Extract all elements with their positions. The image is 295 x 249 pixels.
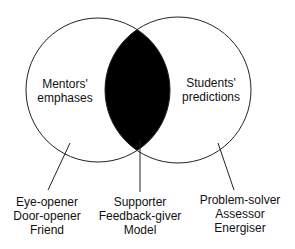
callout-left-line2: Door-opener: [13, 209, 80, 223]
students-label-line1: Students': [186, 76, 236, 90]
venn-diagram: Mentors' emphases Students' predictions …: [0, 0, 295, 249]
callout-right-line1: Problem-solver: [200, 193, 281, 207]
leader-line-right: [218, 143, 234, 190]
callout-middle-line1: Supporter: [114, 195, 167, 209]
students-label-line2: predictions: [182, 90, 240, 104]
callout-right-line3: Energiser: [214, 221, 265, 235]
callout-middle-line2: Feedback-giver: [99, 209, 182, 223]
callout-right-line2: Assessor: [215, 207, 264, 221]
mentors-label-line2: emphases: [37, 91, 92, 105]
mentors-label-line1: Mentors': [42, 77, 88, 91]
callout-left-line1: Eye-opener: [16, 195, 78, 209]
callout-middle-line3: Model: [124, 223, 157, 237]
callout-left-line3: Friend: [30, 223, 64, 237]
